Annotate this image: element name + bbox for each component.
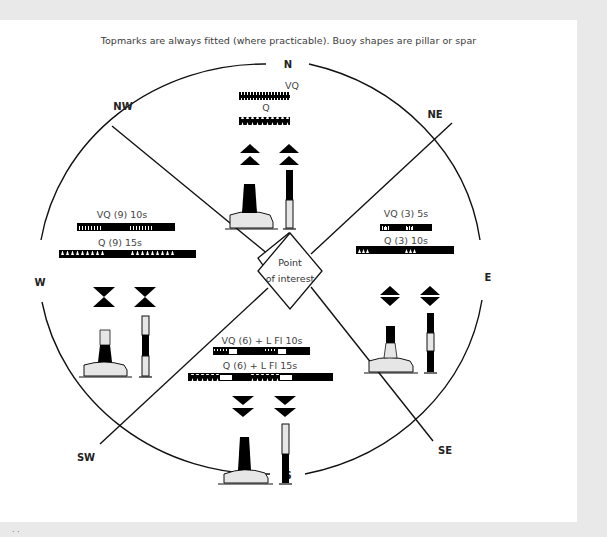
footer-text-fragment: · · — [12, 528, 20, 537]
north-topmark-icon — [240, 144, 299, 165]
sector-west: VQ (9) 10s Q (9) 15s — [59, 209, 196, 377]
south-pillar-buoy-icon — [218, 437, 273, 484]
compass-label-e: E — [485, 272, 492, 283]
south-topmark-icon — [232, 396, 296, 417]
compass-label-w: W — [34, 277, 45, 288]
east-vq-rhythm-bar — [380, 224, 432, 231]
north-light-vq: VQ — [285, 80, 299, 91]
east-light-vq: VQ (3) 5s — [384, 208, 429, 219]
compass-label-ne: NE — [427, 109, 442, 120]
west-q-rhythm-bar — [59, 250, 196, 258]
west-spar-buoy-icon — [139, 316, 152, 377]
sector-north: VQ Q — [225, 80, 299, 229]
compass-label-sw: SW — [77, 452, 95, 463]
east-spar-buoy-icon — [424, 313, 437, 373]
compass-label-nw: NW — [113, 101, 132, 112]
sector-east: VQ (3) 5s Q (3) 10s — [356, 208, 454, 373]
cardinal-marks-diagram: N NE E SE S SW W NW Point of interest VQ… — [0, 0, 607, 537]
west-vq-rhythm-bar — [77, 223, 175, 231]
sector-south: VQ (6) + L Fl 10s Q (6) + L Fl 15s — [188, 335, 333, 484]
west-light-vq: VQ (9) 10s — [97, 209, 148, 220]
south-light-q: Q (6) + L Fl 15s — [223, 360, 297, 371]
north-pillar-buoy-icon — [225, 184, 278, 229]
poi-label-line1: Point — [278, 257, 302, 268]
east-pillar-buoy-icon — [364, 326, 418, 373]
south-vq-rhythm-bar — [213, 347, 310, 355]
east-light-q: Q (3) 10s — [384, 235, 428, 246]
north-vq-rhythm-bar — [239, 92, 290, 100]
compass-label-n: N — [284, 59, 292, 70]
south-q-rhythm-bar — [188, 373, 333, 381]
west-pillar-buoy-icon — [79, 330, 132, 377]
north-q-rhythm-bar — [239, 117, 290, 125]
compass-label-se: SE — [438, 445, 452, 456]
south-light-vq: VQ (6) + L Fl 10s — [222, 335, 303, 346]
north-spar-buoy-icon — [283, 170, 296, 229]
east-topmark-icon — [380, 286, 440, 306]
east-q-rhythm-bar — [356, 246, 454, 254]
point-of-interest: Point of interest — [258, 233, 322, 309]
west-light-q: Q (9) 15s — [98, 237, 142, 248]
poi-label-line2: of interest — [266, 273, 315, 284]
north-light-q: Q — [262, 102, 269, 113]
west-topmark-icon — [93, 287, 156, 307]
